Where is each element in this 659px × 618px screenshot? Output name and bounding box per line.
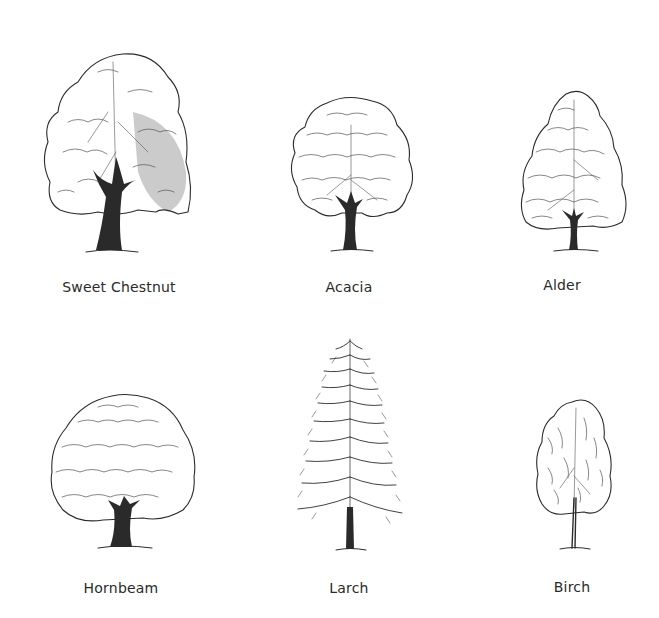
caption-larch: Larch [329, 580, 368, 596]
tree-figure-hornbeam [48, 392, 198, 552]
tree-figure-acacia [287, 95, 417, 255]
tree-figure-birch [534, 398, 614, 553]
birch-illustration [534, 398, 614, 553]
caption-sweet-chestnut: Sweet Chestnut [62, 279, 176, 295]
acacia-illustration [287, 95, 417, 255]
tree-figure-alder [518, 90, 633, 255]
tree-figure-sweet-chestnut [38, 52, 198, 257]
sweet-chestnut-illustration [38, 52, 198, 257]
alder-illustration [518, 90, 633, 255]
tree-figure-larch [296, 337, 404, 552]
caption-hornbeam: Hornbeam [84, 580, 159, 596]
hornbeam-illustration [48, 392, 198, 552]
caption-acacia: Acacia [326, 279, 373, 295]
larch-illustration [296, 337, 404, 552]
caption-birch: Birch [554, 579, 591, 595]
caption-alder: Alder [543, 277, 581, 293]
tree-illustration-plate: Sweet Chestnut Acacia Alder Hornbeam [0, 0, 659, 618]
